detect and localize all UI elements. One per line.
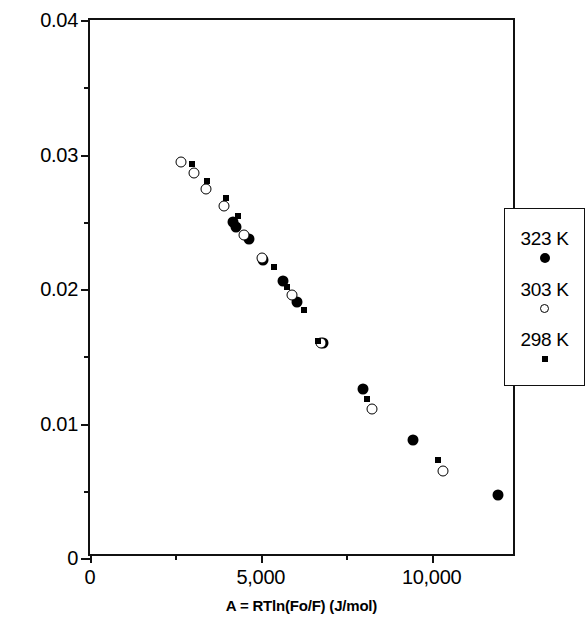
legend-marker-filled-circle-icon bbox=[540, 252, 550, 264]
data-point-303-k bbox=[188, 168, 199, 179]
data-point-303-k bbox=[256, 253, 267, 264]
y-tick bbox=[84, 356, 90, 358]
data-point-323-k bbox=[357, 384, 368, 395]
filled-circle-icon bbox=[540, 253, 550, 263]
y-tick bbox=[81, 289, 90, 291]
chart-legend: 323 K303 K298 K bbox=[504, 208, 585, 386]
y-tick-label: 0.01 bbox=[40, 412, 78, 435]
data-point-298-k bbox=[315, 338, 321, 344]
x-tick bbox=[261, 554, 263, 563]
x-tick bbox=[346, 554, 348, 560]
legend-label: 303 K bbox=[520, 280, 568, 299]
plot-area: 00.010.020.030.04 05,00010,000 323 K303 … bbox=[88, 18, 515, 556]
x-tick bbox=[175, 554, 177, 560]
x-tick bbox=[90, 554, 92, 563]
legend-label: 298 K bbox=[520, 330, 568, 349]
data-point-303-k bbox=[201, 183, 212, 194]
legend-entry-298-k: 298 K bbox=[520, 330, 568, 365]
data-point-303-k bbox=[219, 200, 230, 211]
data-point-298-k bbox=[284, 284, 290, 290]
data-point-303-k bbox=[238, 229, 249, 240]
y-tick bbox=[84, 222, 90, 224]
y-tick-label: 0.03 bbox=[40, 143, 78, 166]
data-point-323-k bbox=[493, 490, 504, 501]
data-point-303-k bbox=[366, 404, 377, 415]
y-tick bbox=[81, 424, 90, 426]
y-tick-label: 0 bbox=[67, 547, 78, 570]
y-tick bbox=[81, 558, 90, 560]
y-tick bbox=[81, 155, 90, 157]
legend-marker-open-circle-icon bbox=[540, 303, 549, 315]
open-circle-icon bbox=[540, 304, 549, 313]
y-tick-label: 0.04 bbox=[40, 9, 78, 32]
data-point-298-k bbox=[204, 178, 210, 184]
legend-marker-small-square-icon bbox=[542, 353, 548, 365]
data-point-303-k bbox=[437, 465, 448, 476]
y-tick bbox=[81, 20, 90, 22]
legend-entry-303-k: 303 K bbox=[520, 280, 568, 315]
legend-entry-323-k: 323 K bbox=[520, 229, 568, 264]
data-point-323-k bbox=[408, 434, 419, 445]
x-tick-label: 10,000 bbox=[402, 566, 461, 589]
x-tick-label: 5,000 bbox=[237, 566, 286, 589]
data-point-303-k bbox=[175, 156, 186, 167]
data-point-298-k bbox=[301, 307, 307, 313]
y-tick bbox=[84, 87, 90, 89]
x-axis-title: A = RTln(Fo/F) (J/mol) bbox=[88, 597, 515, 614]
data-point-298-k bbox=[223, 195, 229, 201]
x-tick-label: 0 bbox=[85, 566, 96, 589]
x-tick bbox=[432, 554, 434, 563]
small-square-icon bbox=[542, 356, 548, 362]
data-point-303-k bbox=[286, 290, 297, 301]
y-tick bbox=[84, 491, 90, 493]
legend-label: 323 K bbox=[520, 229, 568, 248]
data-point-298-k bbox=[271, 264, 277, 270]
data-point-298-k bbox=[189, 161, 195, 167]
data-point-298-k bbox=[435, 457, 441, 463]
data-point-298-k bbox=[364, 396, 370, 402]
data-point-298-k bbox=[235, 213, 241, 219]
y-tick-label: 0.02 bbox=[40, 278, 78, 301]
